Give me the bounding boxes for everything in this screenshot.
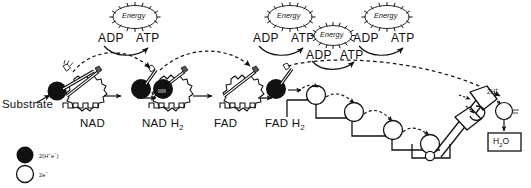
oxygen-circle [496, 103, 513, 120]
hop-3 [364, 110, 392, 121]
adp-label-1: ADP [98, 32, 124, 44]
energy-label-3: Energy [320, 31, 343, 38]
cytochrome-staircase [287, 100, 440, 150]
legend-label-hydrogen: 2(H+e−) [39, 152, 59, 159]
atp-label-1: ATP [136, 32, 160, 44]
cytochrome-3 [384, 121, 403, 140]
enzyme-fad [220, 66, 264, 111]
cytochrome-2 [345, 103, 364, 122]
hop-2 [326, 94, 354, 103]
adp-label-2: ADP [253, 32, 279, 44]
adp-atp-arrow-1 [100, 44, 158, 60]
legend-open-circle-icon [17, 166, 34, 183]
enzyme-substrate [96, 75, 137, 111]
adp-atp-arrow-4 [355, 44, 413, 60]
energy-label-1: Energy [122, 12, 145, 19]
electron-arc-2 [160, 51, 250, 70]
atp-label-4: ATP [391, 32, 415, 44]
legend-label-electron: 2e− [39, 171, 48, 178]
cytochrome-1 [307, 86, 326, 105]
adp-label-4: ADP [353, 32, 379, 44]
nadh2-label: NAD H2 [142, 118, 184, 132]
nad-label: NAD [80, 118, 105, 130]
two-h-plus-label: 2H+ [487, 88, 498, 96]
substrate-label: Substrate [2, 99, 53, 111]
water-label: H2O [493, 137, 509, 148]
fad-label: FAD [214, 118, 237, 130]
diagram-canvas: Energy ADP ATP Energy ADP ATP [0, 0, 531, 188]
legend-filled-circle-icon [17, 147, 34, 164]
energy-label-4: Energy [374, 12, 397, 19]
hop-4 [403, 128, 429, 135]
adp-atp-arrow-3 [308, 59, 364, 75]
energy-label-2: Energy [277, 12, 300, 19]
fadh2-label: FAD H2 [265, 118, 305, 132]
